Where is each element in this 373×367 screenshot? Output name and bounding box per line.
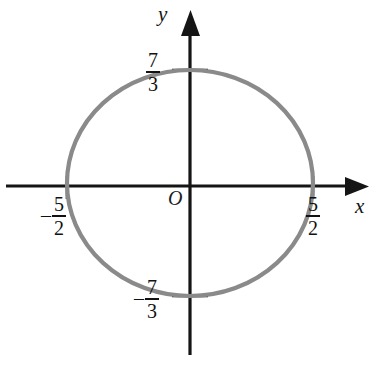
fraction-sign: – (41, 205, 51, 227)
fraction: 5 2 (306, 194, 320, 239)
fraction: 7 3 (146, 50, 160, 95)
fraction-numerator: 7 (146, 277, 158, 297)
x-intercept-negative-label: – 5 2 (41, 194, 66, 239)
coordinate-plane-figure: y x O 7 3 – 7 3 – 5 2 5 2 (0, 0, 373, 367)
y-intercept-negative-label: – 7 3 (134, 277, 159, 322)
origin-label: O (168, 188, 182, 208)
plot-canvas (0, 0, 373, 367)
fraction-denominator: 2 (53, 218, 65, 238)
fraction-denominator: 3 (146, 301, 158, 321)
y-axis-label: y (158, 4, 167, 25)
fraction: 7 3 (145, 277, 159, 322)
y-axis-arrowhead (181, 10, 200, 36)
fraction: 5 2 (52, 194, 66, 239)
x-axis-label: x (355, 196, 364, 217)
x-intercept-positive-label: 5 2 (305, 194, 320, 239)
fraction-numerator: 5 (307, 194, 319, 214)
fraction-denominator: 3 (147, 74, 159, 94)
y-intercept-positive-label: 7 3 (145, 50, 160, 95)
fraction-numerator: 5 (53, 194, 65, 214)
fraction-sign: – (134, 288, 144, 310)
fraction-numerator: 7 (147, 50, 159, 70)
fraction-denominator: 2 (307, 218, 319, 238)
